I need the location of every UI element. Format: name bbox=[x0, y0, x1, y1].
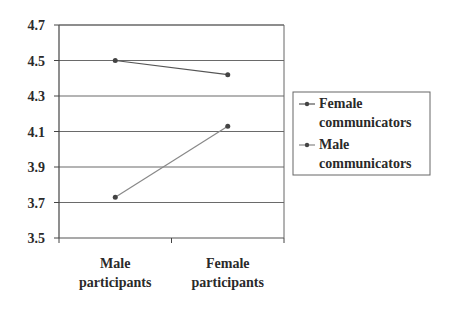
y-tick-label: 4.5 bbox=[28, 54, 46, 69]
series-line-0 bbox=[115, 61, 228, 75]
legend-label: Male bbox=[319, 137, 349, 152]
data-point bbox=[225, 124, 230, 129]
y-tick-label: 4.1 bbox=[28, 125, 46, 140]
x-category-label: Female bbox=[206, 256, 250, 271]
legend-label: Female bbox=[319, 96, 363, 111]
y-tick-label: 3.5 bbox=[28, 231, 46, 246]
y-tick-label: 3.7 bbox=[28, 196, 46, 211]
data-point bbox=[225, 72, 230, 77]
legend-point-marker bbox=[305, 143, 309, 147]
series-line-1 bbox=[115, 126, 228, 197]
data-point bbox=[113, 195, 118, 200]
x-category-label: participants bbox=[192, 275, 265, 290]
legend-label: communicators bbox=[319, 156, 412, 171]
y-tick-label: 4.3 bbox=[28, 89, 46, 104]
x-category-label: participants bbox=[79, 275, 152, 290]
legend-label: communicators bbox=[319, 115, 412, 130]
data-point bbox=[113, 58, 118, 63]
legend-point-marker bbox=[305, 102, 309, 106]
y-tick-label: 3.9 bbox=[28, 160, 46, 175]
y-tick-label: 4.7 bbox=[28, 18, 46, 33]
x-category-label: Male bbox=[100, 256, 130, 271]
line-chart: 3.53.73.94.14.34.54.7 MaleparticipantsFe… bbox=[0, 0, 455, 309]
